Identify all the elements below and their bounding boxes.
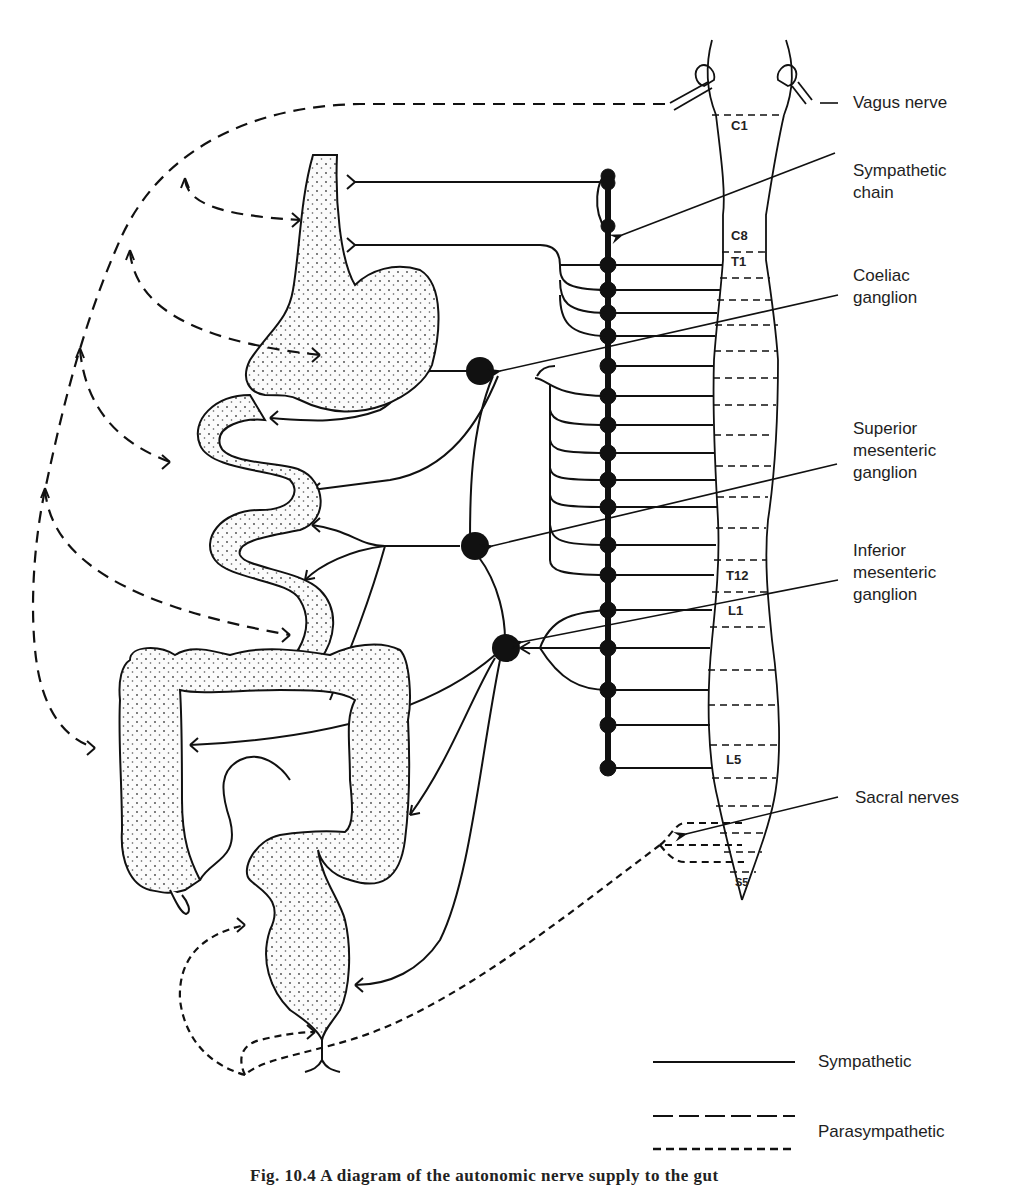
appendix	[170, 890, 189, 914]
large-intestine	[119, 645, 409, 1040]
segment-c1: C1	[731, 118, 748, 133]
superior-mesenteric-ganglion-node	[461, 532, 489, 560]
segment-l1: L1	[728, 603, 743, 618]
vagus-nerve-label: Vagus nerve	[853, 92, 947, 114]
segment-c8: C8	[731, 228, 748, 243]
stomach	[246, 155, 439, 411]
legend-parasympathetic-label: Parasympathetic	[818, 1122, 945, 1142]
coeliac-ganglion-node	[466, 357, 494, 385]
legend-lines	[653, 1062, 795, 1149]
sympathetic-chain	[597, 169, 616, 776]
inferior-mesenteric-ganglion-label: Inferior mesenteric ganglion	[853, 540, 936, 606]
chain-connectors	[608, 265, 722, 768]
spinal-cord	[670, 40, 812, 900]
segment-s5: S5	[735, 876, 748, 888]
figure-caption: Fig. 10.4 A diagram of the autonomic ner…	[250, 1166, 719, 1186]
superior-mesenteric-ganglion-label: Superior mesenteric ganglion	[853, 418, 936, 484]
coeliac-ganglion-label: Coeliac ganglion	[853, 265, 917, 309]
inferior-mesenteric-ganglion-node	[492, 634, 520, 662]
gut-organs	[119, 155, 438, 1072]
legend-sympathetic-label: Sympathetic	[818, 1052, 912, 1072]
segment-l5: L5	[726, 752, 741, 767]
segment-t12: T12	[726, 568, 748, 583]
anal-canal	[305, 1040, 340, 1072]
sympathetic-chain-label: Sympathetic chain	[853, 160, 947, 204]
sacral-nerves-label: Sacral nerves	[855, 787, 959, 809]
segment-t1: T1	[731, 254, 746, 269]
